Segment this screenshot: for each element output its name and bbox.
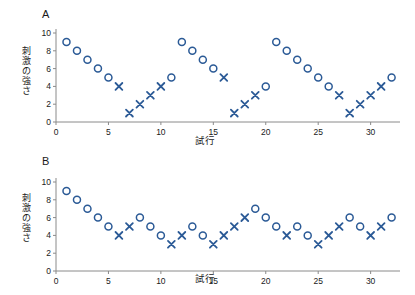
data-point-circle: [84, 56, 91, 63]
data-point-circle: [346, 214, 353, 221]
data-point-cross: [325, 232, 332, 239]
data-point-circle: [73, 196, 80, 203]
y-tick-label: 8: [46, 46, 51, 56]
data-point-cross: [241, 101, 248, 108]
data-point-cross: [126, 110, 133, 117]
y-tick-label: 4: [46, 81, 51, 91]
x-tick-label: 10: [156, 276, 166, 286]
x-tick-label: 5: [106, 276, 111, 286]
x-tick-label: 25: [313, 276, 323, 286]
data-point-cross: [147, 92, 154, 99]
data-point-circle: [273, 38, 280, 45]
data-point-circle: [136, 214, 143, 221]
data-point-circle: [178, 38, 185, 45]
y-tick-label: 6: [46, 213, 51, 223]
data-point-cross: [137, 101, 144, 108]
y-tick-label: 6: [46, 64, 51, 74]
y-tick-label: 10: [42, 177, 52, 187]
data-point-circle: [63, 38, 70, 45]
data-point-cross: [231, 110, 238, 117]
data-point-circle: [262, 214, 269, 221]
y-tick-label: 0: [46, 117, 51, 127]
data-point-cross: [367, 232, 374, 239]
data-point-circle: [315, 74, 322, 81]
x-tick-label: 0: [54, 276, 59, 286]
panel-a-plot: 0246810051015202530: [0, 0, 415, 150]
data-point-circle: [73, 47, 80, 54]
x-tick-label: 30: [366, 276, 376, 286]
data-point-cross: [220, 232, 227, 239]
data-point-circle: [357, 223, 364, 230]
series-circle: [63, 38, 395, 90]
data-point-cross: [346, 110, 353, 117]
data-point-circle: [273, 223, 280, 230]
panel-b-plot: 0246810051015202530: [0, 145, 415, 295]
data-point-circle: [252, 205, 259, 212]
data-point-cross: [210, 241, 217, 248]
data-point-cross: [336, 92, 343, 99]
series-circle: [63, 187, 395, 239]
x-tick-label: 0: [54, 127, 59, 137]
data-point-circle: [157, 232, 164, 239]
data-point-cross: [168, 241, 175, 248]
x-tick-label: 25: [313, 127, 323, 137]
x-tick-label: 15: [209, 276, 219, 286]
panel-b: B 刺 激 の 強 さ 試行 0246810051015202530: [0, 145, 415, 295]
x-tick-label: 20: [261, 276, 271, 286]
data-point-circle: [189, 223, 196, 230]
data-point-circle: [199, 56, 206, 63]
y-tick-label: 2: [46, 248, 51, 258]
data-point-cross: [116, 232, 123, 239]
data-point-cross: [252, 92, 259, 99]
data-point-circle: [283, 47, 290, 54]
data-point-circle: [294, 56, 301, 63]
y-tick-label: 0: [46, 266, 51, 276]
data-point-cross: [178, 232, 185, 239]
data-point-cross: [116, 83, 123, 90]
data-point-circle: [147, 223, 154, 230]
data-point-circle: [105, 74, 112, 81]
data-point-circle: [325, 83, 332, 90]
x-tick-label: 20: [261, 127, 271, 137]
data-point-circle: [388, 214, 395, 221]
y-tick-label: 8: [46, 195, 51, 205]
y-tick-label: 10: [42, 28, 52, 38]
data-point-cross: [357, 101, 364, 108]
data-point-cross: [126, 223, 133, 230]
data-point-circle: [262, 83, 269, 90]
data-point-cross: [378, 83, 385, 90]
data-point-cross: [231, 223, 238, 230]
data-point-cross: [283, 232, 290, 239]
data-point-cross: [367, 92, 374, 99]
data-point-circle: [94, 214, 101, 221]
y-tick-label: 2: [46, 99, 51, 109]
data-point-cross: [157, 83, 164, 90]
data-point-circle: [189, 47, 196, 54]
series-cross: [116, 74, 385, 116]
series-cross: [116, 214, 385, 248]
data-point-circle: [199, 232, 206, 239]
data-point-cross: [241, 214, 248, 221]
figure-staircase-procedure: A 刺 激 の 強 さ 試行 0246810051015202530 B 刺 激…: [0, 0, 415, 295]
data-point-cross: [315, 241, 322, 248]
x-tick-label: 15: [209, 127, 219, 137]
x-tick-label: 10: [156, 127, 166, 137]
data-point-circle: [210, 65, 217, 72]
data-point-circle: [168, 74, 175, 81]
data-point-circle: [105, 223, 112, 230]
data-point-circle: [63, 187, 70, 194]
data-point-cross: [220, 74, 227, 81]
data-point-circle: [84, 205, 91, 212]
y-tick-label: 4: [46, 230, 51, 240]
data-point-circle: [388, 74, 395, 81]
data-point-circle: [294, 223, 301, 230]
x-tick-label: 30: [366, 127, 376, 137]
data-point-circle: [304, 65, 311, 72]
data-point-circle: [304, 232, 311, 239]
data-point-cross: [378, 223, 385, 230]
data-point-cross: [336, 223, 343, 230]
x-tick-label: 5: [106, 127, 111, 137]
data-point-circle: [94, 65, 101, 72]
panel-a: A 刺 激 の 強 さ 試行 0246810051015202530: [0, 0, 415, 150]
